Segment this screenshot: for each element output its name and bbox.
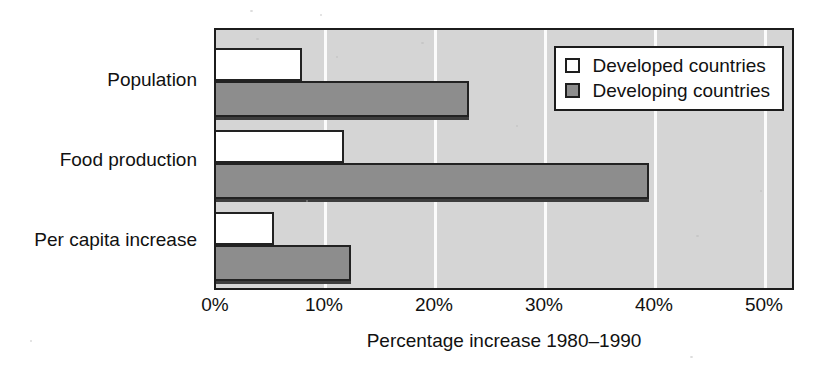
bar-population-developed xyxy=(216,48,302,81)
gridline-30-percent xyxy=(544,30,547,288)
x-tick-20: 20% xyxy=(415,294,453,316)
x-tick-30: 30% xyxy=(525,294,563,316)
bar-food-production-developed xyxy=(216,130,344,163)
bar-population-developing xyxy=(216,81,469,117)
gray-square-swatch-icon xyxy=(565,83,580,98)
gridline-20-percent xyxy=(434,30,437,288)
category-axis-labels: Population Food production Per capita in… xyxy=(0,28,205,290)
bar-per-capita-increase-developed xyxy=(216,212,274,245)
x-axis-title: Percentage increase 1980–1990 xyxy=(214,330,794,352)
plot-area: Developed countries Developing countries xyxy=(214,28,794,290)
bar-food-production-developing xyxy=(216,163,649,199)
legend-label-developed: Developed countries xyxy=(593,56,766,76)
x-tick-0: 0% xyxy=(201,294,228,316)
white-square-swatch-icon xyxy=(565,58,580,73)
bar-per-capita-increase-developing xyxy=(216,245,351,281)
x-tick-10: 10% xyxy=(305,294,343,316)
x-tick-40: 40% xyxy=(635,294,673,316)
x-tick-50: 50% xyxy=(745,294,783,316)
plot-inner: Developed countries Developing countries xyxy=(216,30,792,288)
legend-entry-developed: Developed countries xyxy=(565,53,770,78)
category-label-food-production: Food production xyxy=(0,150,197,170)
bar-chart-figure: Population Food production Per capita in… xyxy=(0,0,823,374)
legend: Developed countries Developing countries xyxy=(554,46,784,111)
legend-label-developing: Developing countries xyxy=(593,81,770,101)
category-label-per-capita-increase: Per capita increase xyxy=(0,230,197,250)
legend-entry-developing: Developing countries xyxy=(565,78,770,103)
category-label-population: Population xyxy=(0,70,197,90)
x-axis-tick-labels: 0% 10% 20% 30% 40% 50% xyxy=(214,294,794,318)
